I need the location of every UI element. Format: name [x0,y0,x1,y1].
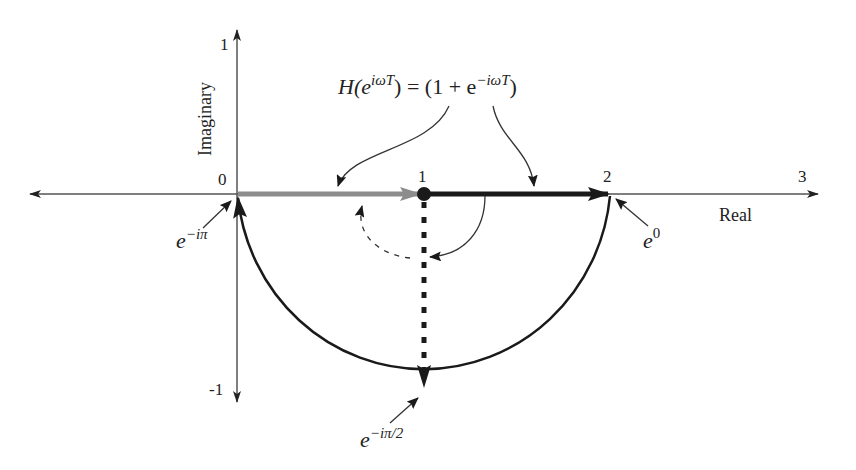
eq-close: ) [510,74,517,99]
equation: H(eiωT) = (1 + e−iωT) [337,72,517,99]
real-tick-3: 3 [798,167,807,186]
eq-H: H(e [337,74,371,99]
pointer-to-constant [338,106,449,186]
imag-tick-minus-1: -1 [209,380,223,399]
imaginary-axis-label: Imaginary [195,82,215,156]
rotation-arc-solid [430,196,485,257]
real-axis-label: Real [719,205,752,225]
real-tick-1: 1 [418,167,427,186]
imag-tick-1: 1 [220,35,229,54]
pointer-to-exponential [493,106,534,186]
label-e-minus-i-pi-over-2: e−iπ/2 [360,425,404,452]
pointer-e-zero [616,199,648,226]
center-point [417,187,431,201]
eq-middle: ) = (1 + e [394,74,476,99]
rotation-arc-dashed [361,206,410,258]
eq-lhs-sup: iωT [371,72,396,88]
complex-plane-diagram: 0 1 2 3 1 -1 Real Imaginary H(eiωT) = (1… [0,0,856,470]
real-tick-0: 0 [218,170,227,189]
label-e-minus-i-pi: e−iπ [176,226,208,253]
label-e-zero: e0 [643,225,660,253]
real-tick-2: 2 [603,167,612,186]
eq-rhs-sup: −iωT [476,72,511,88]
pointer-e-minus-i-pi [203,201,231,228]
pointer-e-minus-i-pi-over-2 [390,398,418,423]
